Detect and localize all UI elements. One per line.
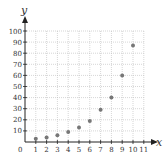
data-point xyxy=(88,119,92,123)
y-axis-label: y xyxy=(20,4,28,17)
x-tick-label: 8 xyxy=(109,146,113,154)
y-tick-label: 40 xyxy=(13,94,22,102)
data-point xyxy=(77,126,81,130)
y-tick-label: 70 xyxy=(13,61,22,69)
x-tick-label: 5 xyxy=(77,146,81,154)
data-point xyxy=(131,43,135,47)
y-tick-label: 50 xyxy=(13,83,22,91)
data-point xyxy=(109,96,113,100)
data-point xyxy=(120,73,124,77)
x-tick-label: 9 xyxy=(120,146,124,154)
x-tick-label: 10 xyxy=(129,146,138,154)
y-tick-label: 20 xyxy=(13,116,22,124)
y-tick-label: 90 xyxy=(13,39,22,47)
data-point xyxy=(55,133,59,137)
x-axis-label: x xyxy=(156,136,163,149)
x-tick-label: 7 xyxy=(98,146,102,154)
y-axis-arrow-icon xyxy=(22,16,28,23)
y-tick-label: 10 xyxy=(13,127,22,135)
data-point xyxy=(34,137,38,141)
data-point xyxy=(66,130,70,134)
x-tick-label: 6 xyxy=(88,146,93,154)
tick-labels: 1234567891011102030405060708090100 xyxy=(9,28,149,155)
axes: x y 0 xyxy=(18,4,163,154)
scatter-chart: x y 0 1234567891011102030405060708090100 xyxy=(0,0,163,166)
grid-lines xyxy=(25,31,144,142)
y-tick-label: 80 xyxy=(13,50,22,58)
y-tick-label: 30 xyxy=(13,105,22,113)
x-tick-label: 2 xyxy=(44,146,48,154)
y-tick-label: 60 xyxy=(13,72,22,80)
x-tick-label: 1 xyxy=(34,146,38,154)
y-tick-label: 100 xyxy=(9,28,22,36)
data-point xyxy=(45,136,49,140)
x-tick-label: 11 xyxy=(139,146,148,154)
x-tick-label: 4 xyxy=(66,146,71,154)
origin-label: 0 xyxy=(18,146,22,154)
data-points xyxy=(34,43,135,140)
data-point xyxy=(99,108,103,112)
x-tick-label: 3 xyxy=(55,146,59,154)
